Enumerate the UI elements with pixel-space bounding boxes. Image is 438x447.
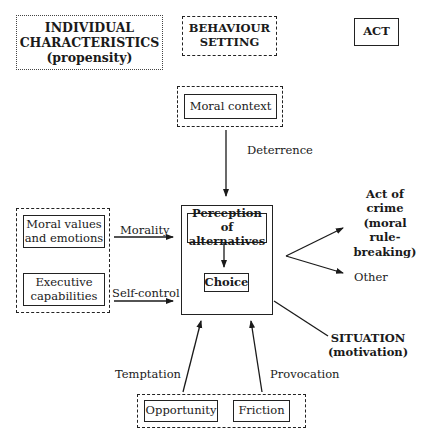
connector-lines <box>0 0 438 447</box>
situation-pointer <box>274 301 328 336</box>
temptation-arrow <box>183 321 201 392</box>
to-other-arrow <box>286 256 343 273</box>
to-act-of-crime-arrow <box>286 228 343 256</box>
provocation-arrow <box>251 321 262 392</box>
